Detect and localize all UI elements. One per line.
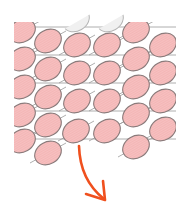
cell-ellipse: [59, 84, 94, 117]
cell-ellipse: [59, 28, 94, 61]
cell-ellipse: [145, 84, 180, 117]
cell-ellipse: [145, 28, 180, 61]
cell-ellipse: [58, 114, 93, 147]
cell-ellipse: [89, 28, 124, 61]
cell-ellipse: [118, 70, 153, 103]
cell-ellipse: [118, 98, 153, 131]
cell-ellipse: [145, 56, 180, 89]
lattice-diagram: [0, 0, 194, 215]
arrow-icon: [79, 146, 105, 200]
cell-ellipse: [89, 56, 124, 89]
cell-ellipse: [89, 114, 124, 147]
ghost-ellipses: [58, 3, 127, 36]
cell-ellipse: [59, 56, 94, 89]
cell-ellipse: [30, 136, 65, 169]
lattice-svg: [0, 0, 194, 215]
arrow-shaft: [79, 146, 104, 199]
cell-ellipse: [145, 112, 180, 145]
cell-ellipse: [118, 130, 153, 163]
cell-ellipse: [89, 84, 124, 117]
ghost-ellipse: [58, 3, 93, 36]
cell-ellipse: [118, 42, 153, 75]
